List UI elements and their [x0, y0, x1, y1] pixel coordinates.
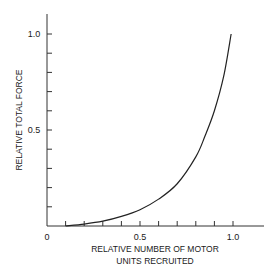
y-tick-label-05: 0.5: [28, 125, 41, 135]
x-tick-label-1: 1.0: [227, 232, 240, 242]
x-axis-label-line1: RELATIVE NUMBER OF MOTOR: [91, 244, 219, 254]
x-tick-label-05: 0.5: [134, 232, 147, 242]
chart-canvas: 1.0 0.5 0 0.5 1.0 RELATIVE NUMBER OF MOT…: [0, 0, 277, 276]
y-axis-label: RELATIVE TOTAL FORCE: [14, 69, 24, 170]
x-tick-label-0: 0: [44, 232, 49, 242]
data-curve: [66, 34, 232, 226]
axes: [47, 14, 264, 226]
y-ticks: [47, 34, 52, 207]
x-axis-label-line2: UNITS RECRUITED: [116, 256, 193, 266]
y-tick-label-1: 1.0: [28, 29, 41, 39]
